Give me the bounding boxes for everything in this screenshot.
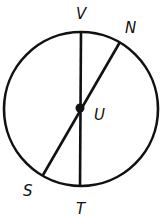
label-s: S [23,182,33,200]
label-n: N [125,19,136,37]
label-u: U [94,106,105,124]
label-v: V [76,5,88,23]
circle-diagram: V N U S T [0,0,164,218]
label-t: T [76,200,87,218]
center-point-u [76,104,85,113]
